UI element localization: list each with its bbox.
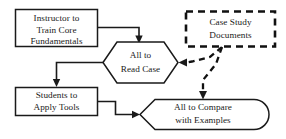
flowchart-diagram: Instructor to Train Core Fundamentals Ca… bbox=[0, 0, 286, 139]
connector-read-case-to-apply-tools bbox=[53, 63, 103, 88]
apply-tools-label-line2: Apply Tools bbox=[34, 102, 80, 112]
arrowhead-icon bbox=[199, 91, 207, 100]
instructor-label-line1: Instructor to bbox=[34, 13, 80, 23]
connector-apply-tools-to-compare bbox=[98, 102, 141, 119]
connector-case-study-to-compare bbox=[199, 47, 222, 100]
arrowhead-icon bbox=[132, 111, 140, 118]
arrowhead-icon bbox=[53, 79, 60, 87]
node-all-to-read-case: All to Read Case bbox=[103, 42, 178, 83]
read-case-hexagon-outline bbox=[103, 42, 178, 83]
connector-instructor-to-read-case bbox=[98, 28, 143, 44]
node-case-study-documents: Case Study Documents bbox=[186, 12, 275, 47]
compare-label-line2: with Examples bbox=[175, 115, 231, 125]
node-instructor-to-train-core-fundamentals: Instructor to Train Core Fundamentals bbox=[16, 10, 98, 47]
case-study-label-line1: Case Study bbox=[209, 17, 251, 27]
flowchart-canvas: Instructor to Train Core Fundamentals Ca… bbox=[0, 0, 286, 139]
arrowhead-icon bbox=[179, 59, 188, 67]
compare-label-line1: All to Compare bbox=[174, 102, 232, 112]
read-case-label-line1: All to bbox=[130, 50, 152, 60]
instructor-label-line3: Fundamentals bbox=[30, 36, 83, 46]
node-students-to-apply-tools: Students to Apply Tools bbox=[16, 88, 98, 116]
node-all-to-compare-with-examples: All to Compare with Examples bbox=[140, 100, 269, 130]
connector-case-study-to-read-case bbox=[179, 47, 223, 66]
instructor-label-line2: Train Core bbox=[36, 25, 76, 35]
read-case-label-line2: Read Case bbox=[121, 64, 160, 74]
apply-tools-label-line1: Students to bbox=[36, 90, 78, 100]
case-study-label-line2: Documents bbox=[209, 30, 252, 40]
